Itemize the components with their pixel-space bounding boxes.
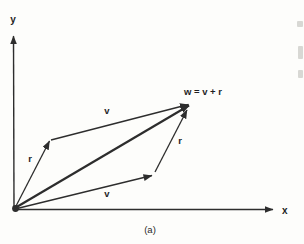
x-axis-label: x xyxy=(282,205,288,216)
diagram-canvas: y x r v w = v + r r v (a) xyxy=(0,0,304,244)
page-edge-artifact xyxy=(297,21,303,27)
vector-w-label: w = v + r xyxy=(183,86,222,97)
y-axis xyxy=(14,36,15,208)
vector-r-right-label: r xyxy=(178,135,182,146)
origin-dot xyxy=(12,205,19,212)
vector-r-left-label: r xyxy=(28,153,32,164)
vector-v-lower xyxy=(15,176,152,210)
vector-r-right xyxy=(155,110,187,172)
page-edge-artifact xyxy=(298,70,303,78)
page-edge-artifact xyxy=(298,46,303,59)
vector-addition-diagram: y x r v w = v + r r v (a) xyxy=(0,0,304,244)
vector-v-lower-label: v xyxy=(104,188,110,199)
y-axis-label: y xyxy=(10,14,16,25)
vector-v-upper-label: v xyxy=(104,105,110,116)
page-edge-artifacts xyxy=(297,21,303,78)
figure-caption: (a) xyxy=(144,224,156,235)
vector-v-upper xyxy=(51,105,189,141)
